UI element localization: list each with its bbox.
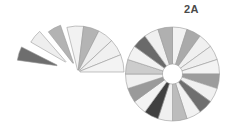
diagram-canvas: 2A: [0, 0, 231, 132]
wheel-diagram: [0, 0, 231, 132]
partial-wheel-fan: [17, 25, 124, 72]
figure-label: 2A: [184, 3, 199, 15]
full-segmented-wheel: [126, 27, 220, 121]
